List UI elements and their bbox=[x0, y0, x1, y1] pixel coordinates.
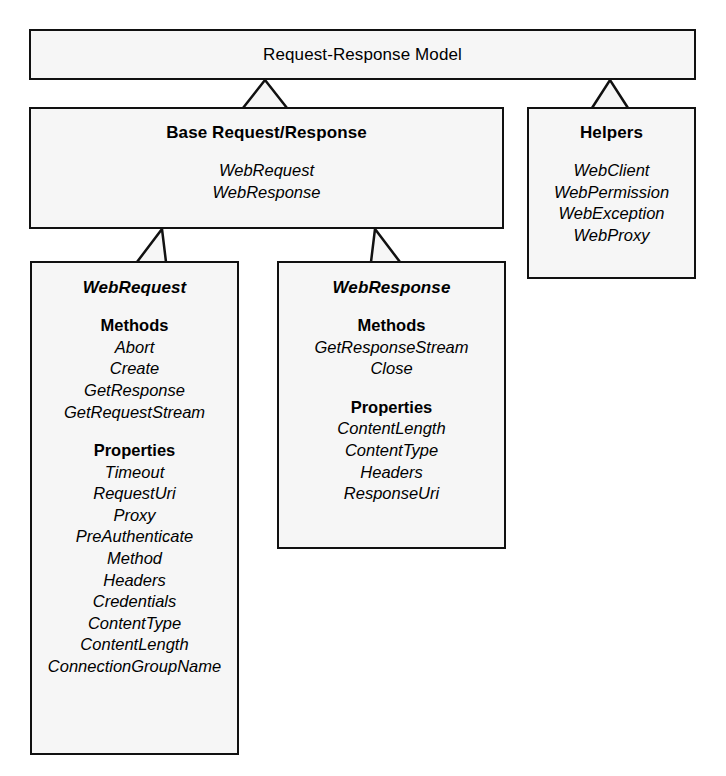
section-heading-properties: Properties bbox=[32, 440, 237, 461]
connector-base-to-root bbox=[243, 80, 287, 108]
list-item: WebRequest bbox=[31, 160, 502, 182]
list-item: WebException bbox=[529, 203, 694, 225]
member-list-webrequest-properties: Timeout RequestUri Proxy PreAuthenticate… bbox=[32, 462, 237, 678]
node-base-request-response: Base Request/Response WebRequest WebResp… bbox=[29, 107, 504, 229]
list-item: ContentType bbox=[32, 613, 237, 635]
spacer bbox=[32, 423, 237, 440]
list-item: GetResponseStream bbox=[279, 337, 504, 359]
section-heading-methods: Methods bbox=[279, 315, 504, 336]
list-item: WebResponse bbox=[31, 182, 502, 204]
node-request-response-model: Request-Response Model bbox=[29, 29, 696, 80]
list-item: PreAuthenticate bbox=[32, 526, 237, 548]
member-list-webresponse-properties: ContentLength ContentType Headers Respon… bbox=[279, 418, 504, 504]
node-title-root: Request-Response Model bbox=[263, 44, 462, 65]
node-title-webresponse: WebResponse bbox=[279, 277, 504, 298]
node-title-base: Base Request/Response bbox=[31, 122, 502, 143]
list-item: Headers bbox=[32, 570, 237, 592]
spacer bbox=[32, 298, 237, 315]
list-item: RequestUri bbox=[32, 483, 237, 505]
list-item: Close bbox=[279, 358, 504, 380]
node-webrequest: WebRequest Methods Abort Create GetRespo… bbox=[30, 261, 239, 755]
list-item: Timeout bbox=[32, 462, 237, 484]
connector-webresponse-to-base bbox=[371, 229, 400, 262]
list-item: ContentType bbox=[279, 440, 504, 462]
spacer bbox=[31, 143, 502, 160]
list-item: WebClient bbox=[529, 160, 694, 182]
list-item: Headers bbox=[279, 462, 504, 484]
spacer bbox=[529, 143, 694, 160]
section-heading-properties: Properties bbox=[279, 397, 504, 418]
list-item: Abort bbox=[32, 337, 237, 359]
spacer bbox=[279, 298, 504, 315]
list-item: WebPermission bbox=[529, 182, 694, 204]
member-list-base: WebRequest WebResponse bbox=[31, 160, 502, 203]
list-item: Create bbox=[32, 358, 237, 380]
member-list-helpers: WebClient WebPermission WebException Web… bbox=[529, 160, 694, 246]
list-item: Proxy bbox=[32, 505, 237, 527]
member-list-webresponse-methods: GetResponseStream Close bbox=[279, 337, 504, 380]
node-title-webrequest: WebRequest bbox=[32, 277, 237, 298]
connector-webrequest-to-base bbox=[137, 229, 166, 262]
list-item: ResponseUri bbox=[279, 483, 504, 505]
list-item: GetRequestStream bbox=[32, 402, 237, 424]
member-list-webrequest-methods: Abort Create GetResponse GetRequestStrea… bbox=[32, 337, 237, 423]
list-item: GetResponse bbox=[32, 380, 237, 402]
node-webresponse: WebResponse Methods GetResponseStream Cl… bbox=[277, 261, 506, 549]
list-item: ContentLength bbox=[32, 634, 237, 656]
spacer bbox=[279, 380, 504, 397]
list-item: Credentials bbox=[32, 591, 237, 613]
class-hierarchy-diagram: Request-Response Model Base Request/Resp… bbox=[0, 0, 726, 776]
list-item: WebProxy bbox=[529, 225, 694, 247]
node-title-helpers: Helpers bbox=[529, 122, 694, 143]
node-helpers: Helpers WebClient WebPermission WebExcep… bbox=[527, 107, 696, 279]
section-heading-methods: Methods bbox=[32, 315, 237, 336]
list-item: Method bbox=[32, 548, 237, 570]
list-item: ContentLength bbox=[279, 418, 504, 440]
list-item: ConnectionGroupName bbox=[32, 656, 237, 678]
connector-helpers-to-root bbox=[592, 80, 628, 108]
